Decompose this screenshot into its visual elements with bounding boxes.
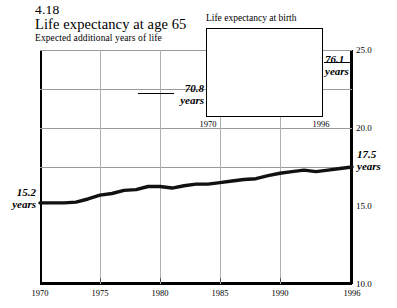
inset-x-axis-tick-label: 1970 (200, 119, 217, 129)
callout-start-unit: years (12, 198, 36, 210)
callout-start-number: 15.2 (17, 186, 36, 198)
callout-start-value: 15.2 years (2, 186, 36, 210)
inset-callout-end: 76.1 years (325, 53, 349, 77)
inset-callout-start: 70.8 years (160, 82, 204, 106)
inset-callout-start-number: 70.8 (185, 82, 204, 94)
callout-end-unit: years (357, 160, 381, 172)
inset-title: Life expectancy at birth (206, 13, 296, 23)
series-life-expectancy-at-65 (40, 167, 352, 203)
inset-plot-area (206, 28, 323, 117)
callout-end-value: 17.5 years (357, 148, 381, 172)
inset-callout-end-number: 76.1 (325, 53, 344, 65)
inset-callout-start-unit: years (180, 94, 204, 106)
callout-end-number: 17.5 (357, 148, 376, 160)
inset-x-axis-tick-label: 1996 (313, 119, 330, 129)
inset-callout-end-unit: years (325, 65, 349, 77)
chart-line-layer (0, 0, 397, 308)
